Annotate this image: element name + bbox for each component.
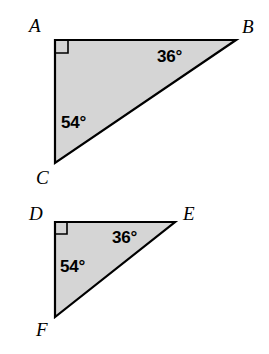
vertex-label-a: A — [29, 16, 41, 35]
triangle-abc-shape — [55, 40, 236, 163]
vertex-label-f: F — [36, 320, 48, 339]
angle-label-e: 36° — [112, 229, 137, 246]
vertex-label-e: E — [183, 204, 195, 223]
angle-label-b: 36° — [157, 48, 182, 65]
vertex-label-c: C — [36, 168, 49, 187]
vertex-label-b: B — [242, 17, 254, 36]
angle-label-f: 54° — [60, 258, 85, 275]
vertex-label-d: D — [29, 204, 43, 223]
angle-label-c: 54° — [61, 114, 86, 131]
geometry-figure: A B C 36° 54° D E F 36° 54° — [0, 0, 269, 354]
